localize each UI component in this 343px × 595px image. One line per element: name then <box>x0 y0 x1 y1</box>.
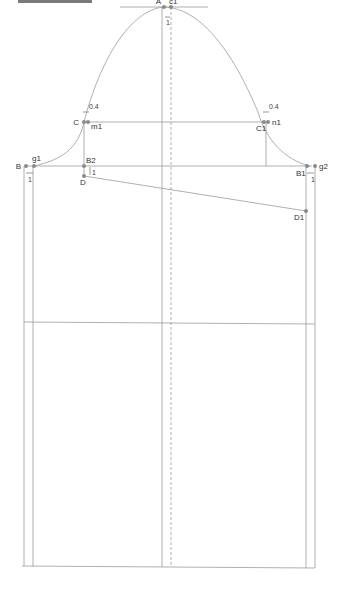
label-c1: c1 <box>169 0 178 6</box>
label-n1: n1 <box>272 118 281 127</box>
elbow-line <box>24 322 315 324</box>
label-m1: m1 <box>91 122 103 131</box>
dim-left-cap-offset: 0.4 <box>89 103 99 110</box>
dim-right-cap-offset: 0.4 <box>269 103 279 110</box>
label-B: B <box>16 162 21 171</box>
point-m1 <box>86 120 90 124</box>
label-D: D <box>80 178 86 187</box>
point-D1 <box>304 209 308 213</box>
label-C1: C1 <box>256 124 267 133</box>
label-B1: B1 <box>296 169 306 178</box>
sleeve-cap-curve <box>34 7 310 166</box>
label-D1: D1 <box>294 213 305 222</box>
label-C: C <box>73 118 79 127</box>
label-A: A <box>156 0 162 6</box>
hem-line <box>22 566 315 568</box>
pattern-diagram: A c1 C m1 C1 n1 B g1 B2 D B1 g2 D1 1 0.4… <box>0 0 343 595</box>
point-n1 <box>266 120 270 124</box>
point-g1 <box>32 164 36 168</box>
label-g2: g2 <box>319 162 328 171</box>
point-A <box>162 5 166 9</box>
label-g1: g1 <box>32 154 41 163</box>
dim-top-offset: 1 <box>166 19 170 26</box>
point-B <box>24 164 28 168</box>
point-B1 <box>305 164 309 168</box>
dim-left-seam: 1 <box>28 176 32 183</box>
label-B2: B2 <box>86 156 96 165</box>
d-to-d1-line <box>84 176 306 211</box>
dim-right-seam: 1 <box>311 176 315 183</box>
point-C <box>82 120 86 124</box>
dim-b2-drop: 1 <box>92 169 96 176</box>
point-g2 <box>313 164 317 168</box>
